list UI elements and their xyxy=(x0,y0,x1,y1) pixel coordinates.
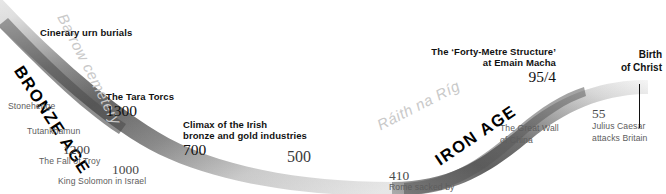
world-event-stonehenge: Stonehenge xyxy=(8,102,55,112)
event-tara-torcs-date: 1300 xyxy=(106,102,137,119)
birth-of-christ-title-line2: of Christ xyxy=(588,61,662,75)
world-event-great-wall-line1: The Great Wall xyxy=(500,124,559,134)
world-event-rome-sacked: Rome sacked by xyxy=(389,183,454,193)
scale-date-410: 410 xyxy=(389,168,409,183)
world-event-tutankhamun: Tutankhamun xyxy=(27,127,80,137)
scale-date-1000: 1000 xyxy=(112,162,139,177)
scale-date-1200: 1200 xyxy=(63,142,90,157)
event-forty-metre-structure-date: 95/4 xyxy=(374,68,556,85)
world-event-great-wall-line2: of China xyxy=(500,136,533,146)
scale-date-55: 55 xyxy=(592,106,606,121)
event-climax-bronze-gold-date: 700 xyxy=(183,141,206,158)
world-event-king-solomon: King Solomon in Israel xyxy=(58,177,146,187)
event-cinerary-urn-burials-title: Cinerary urn burials xyxy=(40,28,132,39)
birth-of-christ-title-line1: Birth xyxy=(588,48,662,62)
world-event-fall-of-troy: The Fall of Troy xyxy=(39,157,100,167)
birth-of-christ-rule xyxy=(639,84,640,128)
world-event-julius-caesar-line2: attacks Britain xyxy=(592,134,647,144)
scale-date-500: 500 xyxy=(287,148,311,166)
timeline-figure: Barrow cemetery Ráith na Ríg BRONZE AGE … xyxy=(0,0,666,194)
world-event-julius-caesar-line1: Julius Caesar xyxy=(592,122,645,132)
